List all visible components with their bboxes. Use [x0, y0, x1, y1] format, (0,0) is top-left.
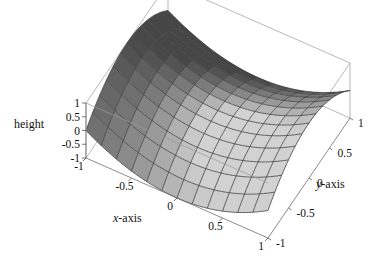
tick-label: 0.5 — [208, 220, 223, 232]
tick-label: 1 — [74, 97, 80, 109]
tick-label: -1 — [74, 160, 84, 172]
tick-label: 0.5 — [338, 147, 353, 159]
tick-label: 0 — [317, 177, 323, 189]
tick-label: 1 — [358, 117, 364, 129]
tick-label: -0.5 — [115, 180, 133, 192]
tick-label: -0.5 — [62, 138, 80, 150]
tick-label: -0.5 — [297, 207, 315, 219]
tick-label: 0 — [74, 125, 80, 137]
tick-label: 0.5 — [66, 111, 81, 123]
surface-plot-figure: 10.50-0.5-1-1-0.500.5110.50-0.5-1 height… — [0, 0, 379, 262]
tick-label: 0 — [167, 200, 173, 212]
surface-plot-canvas: 10.50-0.5-1-1-0.500.5110.50-0.5-1 — [0, 0, 379, 262]
tick-label: 1 — [258, 240, 264, 252]
tick-label: -1 — [276, 237, 286, 249]
